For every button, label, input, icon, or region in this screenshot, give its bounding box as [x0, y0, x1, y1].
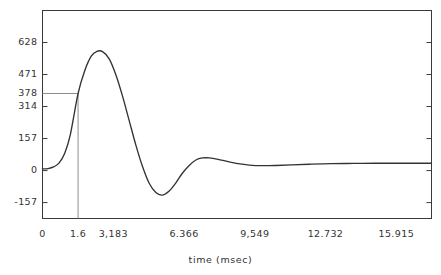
x-tick-label: 6.366	[154, 228, 214, 239]
chart-figure: 6284713141570-157 378 01.63,1836.3669,54…	[0, 0, 441, 275]
y-axis-ticks	[43, 43, 432, 203]
x-tick-label: 3,183	[83, 228, 143, 239]
reference-level-label: 378	[18, 87, 37, 98]
y-tick-label: 628	[18, 36, 37, 47]
annotation-lines	[43, 93, 79, 218]
series-step-response	[43, 51, 432, 195]
y-tick-label: 471	[18, 68, 37, 79]
x-tick-label: 15.915	[366, 228, 426, 239]
y-tick-label: -157	[14, 196, 37, 207]
plot-frame	[43, 11, 432, 219]
x-tick-label: 9,549	[225, 228, 285, 239]
x-axis-title: time (msec)	[0, 254, 441, 265]
y-tick-label: 314	[18, 100, 37, 111]
x-tick-label: 12.732	[296, 228, 356, 239]
y-tick-label: 157	[18, 132, 37, 143]
y-tick-label: 0	[31, 164, 37, 175]
